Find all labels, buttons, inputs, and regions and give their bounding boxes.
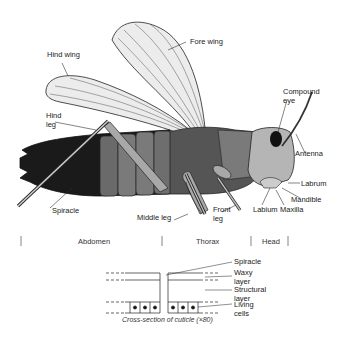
label-hind-leg: Hind leg <box>46 112 61 129</box>
insect-diagram: Hind wing Fore wing Hind leg Compound ey… <box>0 0 340 338</box>
cuticle-label-living-cells: Living cells <box>234 301 254 318</box>
thorax <box>170 127 258 194</box>
cuticle-label-waxy-layer: Waxy layer <box>234 269 252 286</box>
compound-eye-shape <box>270 131 282 147</box>
label-labium: Labium <box>253 206 278 215</box>
cuticle-label-spiracle: Spiracle <box>234 258 261 267</box>
section-abdomen: Abdomen <box>78 237 110 246</box>
label-maxilla: Maxilla <box>280 206 303 215</box>
label-spiracle: Spiracle <box>52 207 79 216</box>
label-mandible: Mandible <box>291 196 321 205</box>
section-thorax: Thorax <box>196 237 219 246</box>
abdomen <box>20 130 172 196</box>
cuticle-caption: Cross-section of cuticle (×80) <box>122 316 213 323</box>
head <box>248 92 312 188</box>
label-front-leg: Front leg <box>213 206 231 223</box>
label-antenna: Antenna <box>295 150 323 159</box>
section-dividers <box>21 236 288 246</box>
label-hind-wing: Hind wing <box>47 51 80 60</box>
section-head: Head <box>262 237 280 246</box>
label-fore-wing: Fore wing <box>190 38 223 47</box>
label-compound-eye: Compound eye <box>283 88 320 105</box>
cuticle-cross-section <box>106 262 232 313</box>
label-labrum: Labrum <box>301 180 326 189</box>
label-middle-leg: Middle leg <box>137 214 171 223</box>
